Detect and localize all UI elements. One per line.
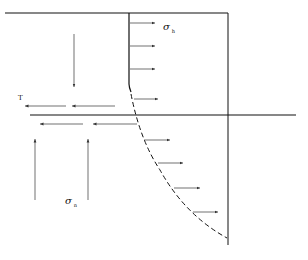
sigma-symbol: σ — [65, 195, 72, 206]
tau-label: T — [18, 94, 23, 102]
sigma-h-label: σh — [163, 21, 175, 34]
tau-symbol: T — [18, 94, 23, 102]
sigma-n-arrows — [35, 139, 88, 200]
sigma-n-label: σn — [65, 195, 77, 208]
sigma-h-arrows — [130, 23, 218, 212]
sigma-symbol: σ — [163, 21, 170, 32]
stress-diagram — [0, 0, 308, 260]
subscript-h: h — [172, 28, 175, 34]
solid-profile-curve — [129, 13, 131, 92]
subscript-n: n — [74, 202, 77, 208]
